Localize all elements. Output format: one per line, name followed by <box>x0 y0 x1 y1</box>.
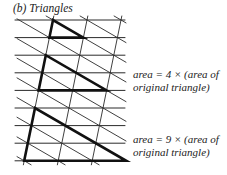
area-4-label-line1: area = 4 × (area of <box>133 68 219 81</box>
area-9-label: area = 9 × (area of original triangle) <box>133 133 219 159</box>
area-4-label-line2: original triangle) <box>133 81 219 94</box>
triangle-area-9 <box>24 108 126 161</box>
area-9-label-line2: original triangle) <box>133 146 219 159</box>
original-triangle <box>49 20 83 38</box>
area-9-label-line1: area = 9 × (area of <box>133 133 219 146</box>
area-4-label: area = 4 × (area of original triangle) <box>133 68 219 94</box>
diagonal-grid-line <box>114 16 126 23</box>
diagonal-grid-line <box>17 78 126 141</box>
